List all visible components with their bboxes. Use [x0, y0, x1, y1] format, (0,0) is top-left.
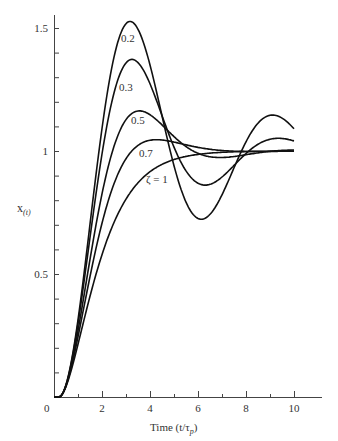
curve-label-0.3: 0.3 — [119, 81, 133, 93]
x-tick-label: 8 — [243, 402, 249, 414]
y-tick-label: 1 — [43, 145, 49, 157]
x-tick-label: 6 — [195, 402, 201, 414]
curve-zeta-0.7 — [54, 140, 294, 397]
curve-label-0.7: 0.7 — [139, 147, 153, 159]
y-axis-label: x(t) — [17, 201, 31, 217]
y-ticks: 0.511.5 — [34, 22, 59, 373]
x-axis-label: Time (t/τp) — [150, 421, 198, 436]
curve-label-0.5: 0.5 — [131, 114, 145, 126]
y-axis-label-sub: (t) — [23, 208, 31, 217]
curve-zeta-0.5 — [54, 111, 294, 397]
x-axis-label-close: ) — [194, 421, 198, 434]
origin-label: 0 — [44, 402, 50, 414]
curve-label-0.2: 0.2 — [121, 32, 135, 44]
curve-zeta-0.2 — [54, 22, 294, 398]
x-tick-label: 10 — [289, 402, 301, 414]
x-ticks: 246810 — [79, 391, 301, 414]
curve-label-zeta-1: ζ = 1 — [146, 173, 168, 186]
x-axis-label-main: Time (t/τ — [150, 421, 190, 434]
x-tick-label: 2 — [99, 402, 105, 414]
y-tick-label: 0.5 — [34, 268, 48, 280]
x-tick-label: 4 — [147, 402, 153, 414]
step-response-chart: 0.511.5 246810 0 x(t) Time (t/τp) 0.2 0.… — [0, 0, 338, 441]
y-tick-label: 1.5 — [34, 22, 48, 34]
curves — [54, 22, 294, 398]
